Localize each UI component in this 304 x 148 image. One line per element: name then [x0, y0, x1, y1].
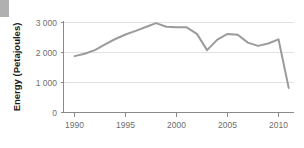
axes: [64, 21, 295, 113]
y-tick-label-2000: 2 000: [36, 48, 58, 58]
corner-decoration-block: [0, 0, 9, 17]
x-tick-label-2005: 2005: [218, 120, 237, 130]
x-tick-labels: 1990 1995 2000 2005 2010: [65, 120, 288, 130]
x-tick-label-1995: 1995: [116, 120, 135, 130]
y-tick-labels: 3 000 2 000 1 000 0: [36, 18, 58, 118]
x-tick-label-2010: 2010: [269, 120, 288, 130]
y-tick-label-3000: 3 000: [36, 18, 58, 28]
y-axis-title: Energy (Petajoules): [11, 23, 22, 112]
gridlines: [64, 23, 295, 83]
x-tick-label-2000: 2000: [167, 120, 186, 130]
x-tick-label-1990: 1990: [65, 120, 84, 130]
chart-canvas: 3 000 2 000 1 000 0 1990 1995 2000 2005 …: [0, 0, 304, 148]
energy-series-line: [75, 23, 289, 88]
x-tick-marks: [75, 113, 279, 117]
energy-line-chart: 3 000 2 000 1 000 0 1990 1995 2000 2005 …: [0, 0, 304, 148]
y-tick-label-1000: 1 000: [36, 78, 58, 88]
y-tick-label-0: 0: [52, 108, 57, 118]
